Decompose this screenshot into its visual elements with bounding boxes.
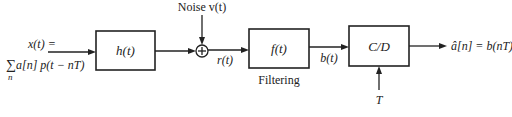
arrowhead-input <box>88 49 96 55</box>
input-sum-symbol: ∑ <box>6 57 16 72</box>
arrowhead-noise <box>199 37 205 45</box>
block-h-label: h(t) <box>116 43 135 58</box>
arrowhead-sampling <box>376 66 382 74</box>
input-sum-subscript: n <box>8 72 13 82</box>
signal-b-label: b(t) <box>320 51 337 65</box>
block-diagram: x(t) = ∑ n a[n] p(t − nT) h(t) Noise v(t… <box>0 0 512 117</box>
block-f-label: f(t) <box>271 41 287 56</box>
arrowhead-cd-in <box>341 44 349 50</box>
arrowhead-output <box>439 43 447 49</box>
noise-label: Noise v(t) <box>178 0 226 14</box>
output-label: â[n] = b(nT) <box>451 39 512 53</box>
input-label-line1: x(t) = <box>27 37 56 51</box>
input-label-line2: a[n] p(t − nT) <box>16 58 84 72</box>
signal-r-label: r(t) <box>217 53 233 67</box>
arrowhead-adder-in <box>188 48 196 54</box>
sampling-label: T <box>376 93 384 107</box>
arrowhead-f-in <box>241 47 249 53</box>
block-cd-label: C/D <box>368 39 390 54</box>
block-f-caption: Filtering <box>258 73 299 87</box>
